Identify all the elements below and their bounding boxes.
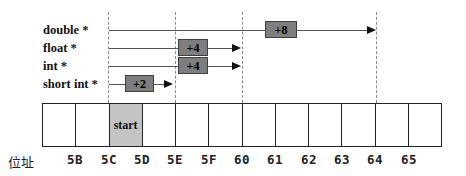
guide-line-64: [376, 12, 377, 103]
start-label: start: [114, 118, 138, 133]
address-label-5b: 5B: [60, 152, 90, 167]
address-label-61: 61: [260, 152, 290, 167]
pointer-type-label-int: int *: [43, 59, 67, 74]
pointer-arrow-int: [109, 66, 234, 67]
pointer-type-label-short-int: short int *: [43, 77, 98, 92]
arrowhead-icon: [232, 44, 241, 52]
memory-cell: [376, 104, 409, 146]
pointer-type-label-double: double *: [43, 23, 89, 38]
memory-cell: [43, 104, 76, 146]
pointer-type-label-float: float *: [43, 41, 77, 56]
memory-cell: [209, 104, 242, 146]
address-label-5c: 5C: [94, 152, 124, 167]
address-axis-label: 位址: [8, 152, 44, 171]
address-label-5d: 5D: [127, 152, 157, 167]
address-label-65: 65: [394, 152, 424, 167]
pointer-arrow-double: [109, 30, 369, 31]
offset-box-short-int: +2: [125, 75, 154, 92]
guide-line-5e: [175, 12, 176, 103]
guide-line-5c: [108, 12, 109, 103]
offset-box-int: +4: [178, 57, 208, 74]
pointer-arrow-float: [109, 48, 234, 49]
address-label-5f: 5F: [194, 152, 224, 167]
memory-cell: [243, 104, 276, 146]
memory-cell: [76, 104, 109, 146]
memory-cell-start: start: [110, 104, 143, 146]
memory-cell: [143, 104, 176, 146]
address-label-62: 62: [294, 152, 324, 167]
memory-cell: [176, 104, 209, 146]
memory-cell: [276, 104, 309, 146]
memory-cell: [409, 104, 441, 146]
memory-cell: [309, 104, 342, 146]
offset-box-double: +8: [265, 21, 297, 38]
arrowhead-icon: [367, 26, 376, 34]
memory-cell: [342, 104, 375, 146]
address-label-64: 64: [360, 152, 390, 167]
pointer-arithmetic-diagram: double * +8 float * +4 int * +4 short in…: [0, 0, 466, 176]
arrowhead-icon: [164, 80, 173, 88]
address-label-60: 60: [227, 152, 257, 167]
arrowhead-icon: [232, 62, 241, 70]
guide-line-60: [242, 12, 243, 103]
address-label-63: 63: [327, 152, 357, 167]
offset-box-float: +4: [178, 39, 208, 56]
address-label-5e: 5E: [160, 152, 190, 167]
memory-cell-row: start: [42, 103, 442, 147]
